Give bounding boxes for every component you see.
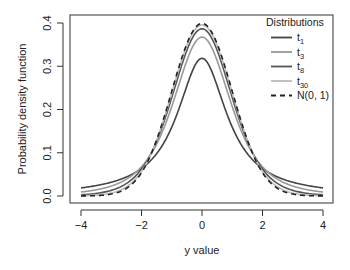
x-tick-label: 2 <box>259 219 265 231</box>
x-tick-label: −2 <box>135 219 148 231</box>
y-tick-label: 0.3 <box>41 59 53 74</box>
y-tick-label: 0.1 <box>41 145 53 160</box>
y-tick-label: 0.0 <box>41 188 53 203</box>
plot-area <box>70 15 333 203</box>
legend-title: Distributions <box>266 16 324 28</box>
x-tick-label: 4 <box>320 219 326 231</box>
y-axis-title: Probability density function <box>16 44 28 175</box>
x-tick-label: 0 <box>199 219 205 231</box>
curve-t8 <box>81 29 323 195</box>
curve-t1 <box>81 58 323 188</box>
legend: Distributions t1t3t8t30N(0, 1) <box>266 16 329 101</box>
legend-label: t1 <box>297 31 304 46</box>
curve-n-0-1- <box>81 23 323 195</box>
curve-t3 <box>81 37 323 192</box>
y-tick-label: 0.2 <box>41 102 53 117</box>
density-chart: 0.00.10.20.30.4 −4−2024 Probability dens… <box>0 0 350 270</box>
x-axis: −4−2024 <box>75 210 326 231</box>
legend-label: t8 <box>297 60 304 75</box>
x-tick-label: −4 <box>75 219 88 231</box>
legend-label: N(0, 1) <box>297 89 329 101</box>
y-tick-label: 0.4 <box>41 15 53 30</box>
x-axis-title: y value <box>185 244 220 256</box>
curves <box>81 23 323 195</box>
legend-label: t30 <box>297 75 308 90</box>
y-axis: 0.00.10.20.30.4 <box>41 15 63 203</box>
legend-label: t3 <box>297 46 304 61</box>
curve-t30 <box>81 25 323 196</box>
